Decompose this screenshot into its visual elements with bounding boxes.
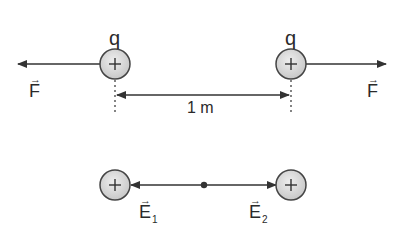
field-label-e1: → E1	[139, 203, 158, 221]
charge-bottom-left	[100, 170, 130, 200]
charge-top-left	[100, 49, 130, 79]
charge-bottom-right	[276, 170, 306, 200]
force-label-right: → F	[367, 82, 378, 100]
field-label-e2: → E2	[249, 203, 268, 221]
charge-label-left: q	[109, 28, 120, 48]
midpoint-dot	[201, 182, 207, 188]
field-subscript: 1	[152, 214, 158, 225]
vector-arrow-icon: →	[30, 74, 41, 85]
charge-top-right	[276, 49, 306, 79]
diagram-canvas	[0, 0, 399, 248]
field-subscript: 2	[262, 214, 268, 225]
force-label-left: → F	[29, 82, 40, 100]
vector-arrow-icon: →	[368, 74, 379, 85]
vector-arrow-icon: →	[140, 195, 151, 206]
vector-arrow-icon: →	[250, 195, 261, 206]
distance-label: 1 m	[187, 100, 214, 116]
charge-label-right: q	[285, 28, 296, 48]
